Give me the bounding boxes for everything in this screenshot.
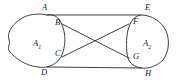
figure-container: A B C D E F G H A1 A2 (0, 0, 182, 83)
vertex-label-e: E (145, 3, 150, 12)
connector-d-h (47, 67, 141, 68)
vertex-label-a: A (42, 3, 47, 12)
vertex-label-d: D (41, 68, 47, 77)
vertex-label-h: H (145, 69, 151, 78)
region-label-a1-subscript: 1 (38, 44, 41, 50)
vertex-label-b: B (55, 18, 60, 27)
region-label-a2-subscript: 2 (148, 44, 151, 50)
vertex-label-f: F (133, 17, 138, 26)
region-label-a2: A2 (143, 39, 151, 50)
region-label-a1: A1 (33, 39, 41, 50)
vertex-label-g: G (133, 52, 139, 61)
vertex-label-c: C (55, 49, 61, 58)
diagram-canvas (0, 0, 182, 83)
